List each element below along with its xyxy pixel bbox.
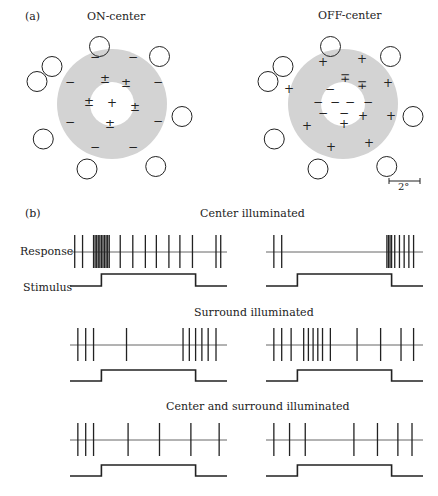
on-center-surround-mark: − xyxy=(90,140,100,154)
off-center-surround-mark: + xyxy=(326,140,336,154)
on-center-mark: ± xyxy=(121,76,131,90)
off-center-mark: + xyxy=(339,117,349,131)
stimulus-trace xyxy=(70,274,227,286)
off-center-mark: ∓ xyxy=(340,71,350,85)
off-center-mark: − xyxy=(363,95,373,109)
on-center-field-outer-circle xyxy=(172,107,192,127)
on-center-field-outer-circle xyxy=(42,57,62,77)
off-center-field-outer-circle xyxy=(273,57,293,77)
off-center-field-outer-circle xyxy=(403,107,423,127)
on-center-surround-mark: − xyxy=(90,50,100,64)
on-center-surround-mark: − xyxy=(65,115,75,129)
off-center-surround-mark: + xyxy=(302,119,312,133)
stimulus-trace xyxy=(70,370,227,381)
on-center-field-outer-circle xyxy=(146,157,166,177)
stimulus-trace xyxy=(70,465,227,476)
on-center-surround-mark: − xyxy=(153,75,163,89)
on-center-field-outer-circle xyxy=(77,159,97,179)
off-center-field-outer-circle xyxy=(377,157,397,177)
off-center-mark: − xyxy=(325,82,335,96)
on-center-field-outer-circle xyxy=(150,47,170,67)
on-center-mark: + xyxy=(107,96,117,110)
off-center-surround-mark: + xyxy=(318,55,328,69)
off-center-mark: ∓ xyxy=(357,78,367,92)
off-center-field-outer-circle xyxy=(381,47,401,67)
on-center-field-outer-circle xyxy=(27,72,47,92)
on-center-mark: ± xyxy=(84,95,94,109)
on-center-surround-mark: − xyxy=(65,75,75,89)
off-center-mark: + xyxy=(358,109,368,123)
off-center-surround-mark: + xyxy=(357,52,367,66)
diagram-canvas: ±±±+±±−−−−−−−−∓∓−−−−−−−++++++++++ xyxy=(0,0,438,496)
stimulus-trace xyxy=(266,370,423,381)
on-center-surround-mark: − xyxy=(128,140,138,154)
off-center-surround-mark: + xyxy=(364,136,374,150)
on-center-surround-mark: − xyxy=(128,50,138,64)
off-center-field-outer-circle xyxy=(308,159,328,179)
on-center-field-outer-circle xyxy=(33,129,53,149)
off-center-surround-mark: + xyxy=(383,76,393,90)
on-center-mark: ± xyxy=(130,100,140,114)
off-center-surround-mark: + xyxy=(284,82,294,96)
off-center-field-outer-circle xyxy=(258,72,278,92)
off-center-mark: − xyxy=(318,106,328,120)
on-center-mark: ± xyxy=(105,117,115,131)
stimulus-trace xyxy=(266,274,423,286)
on-center-surround-mark: − xyxy=(153,114,163,128)
off-center-field-outer-circle xyxy=(264,129,284,149)
off-center-surround-mark: + xyxy=(386,109,396,123)
stimulus-trace xyxy=(266,465,423,476)
on-center-mark: ± xyxy=(100,72,110,86)
